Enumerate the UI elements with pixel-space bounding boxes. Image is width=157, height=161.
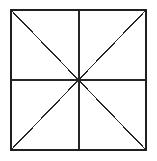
figure-container: Square divided into eight triangles by m… bbox=[0, 0, 157, 161]
geometric-figure-svg: Square divided into eight triangles by m… bbox=[0, 0, 157, 161]
